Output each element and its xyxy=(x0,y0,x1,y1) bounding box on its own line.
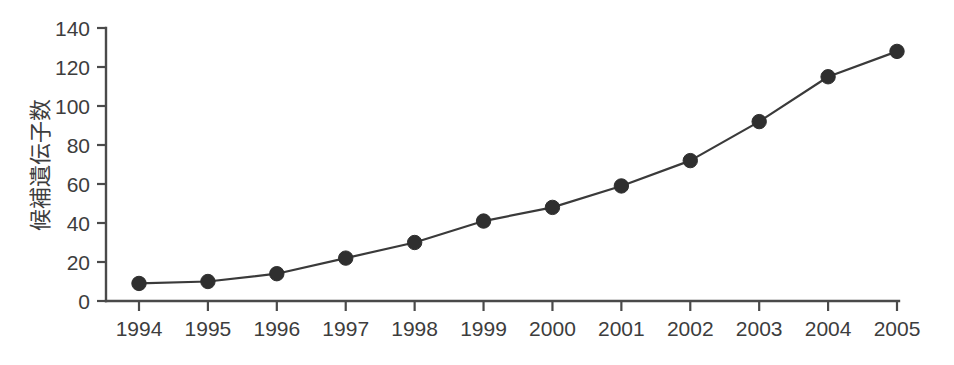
x-tick-label: 1999 xyxy=(460,317,507,340)
data-point-marker xyxy=(821,70,835,84)
y-tick-label: 40 xyxy=(67,212,90,235)
data-series xyxy=(139,51,897,283)
y-axis-ticks: 020406080100120140 xyxy=(55,17,106,313)
y-tick-label: 80 xyxy=(67,134,90,157)
data-points xyxy=(132,44,904,290)
data-point-marker xyxy=(201,274,215,288)
y-tick-label: 100 xyxy=(55,95,90,118)
x-tick-label: 1997 xyxy=(322,317,369,340)
data-point-marker xyxy=(890,44,904,58)
x-tick-label: 1995 xyxy=(185,317,232,340)
data-point-marker xyxy=(476,214,490,228)
y-tick-label: 20 xyxy=(67,251,90,274)
data-point-marker xyxy=(270,267,284,281)
x-tick-label: 2004 xyxy=(805,317,852,340)
line-chart-canvas: 候補遺伝子数 020406080100120140 19941995199619… xyxy=(0,0,954,365)
data-point-marker xyxy=(545,200,559,214)
x-tick-label: 1994 xyxy=(116,317,163,340)
data-point-marker xyxy=(132,276,146,290)
y-tick-label: 60 xyxy=(67,173,90,196)
y-axis-label: 候補遺伝子数 xyxy=(28,99,53,231)
x-axis-ticks: 1994199519961997199819992000200120022003… xyxy=(116,301,921,340)
data-point-marker xyxy=(339,251,353,265)
y-tick-label: 0 xyxy=(78,290,90,313)
x-tick-label: 2001 xyxy=(598,317,645,340)
x-tick-label: 2002 xyxy=(667,317,714,340)
data-point-marker xyxy=(752,114,766,128)
y-tick-label: 120 xyxy=(55,56,90,79)
x-tick-label: 2005 xyxy=(874,317,921,340)
series-line-candidate-genes xyxy=(139,51,897,283)
data-point-marker xyxy=(683,153,697,167)
x-tick-label: 1996 xyxy=(253,317,300,340)
x-tick-label: 1998 xyxy=(391,317,438,340)
x-tick-label: 2003 xyxy=(736,317,783,340)
chart-figure: 候補遺伝子数 020406080100120140 19941995199619… xyxy=(0,0,954,365)
data-point-marker xyxy=(407,235,421,249)
x-tick-label: 2000 xyxy=(529,317,576,340)
data-point-marker xyxy=(614,179,628,193)
y-tick-label: 140 xyxy=(55,17,90,40)
